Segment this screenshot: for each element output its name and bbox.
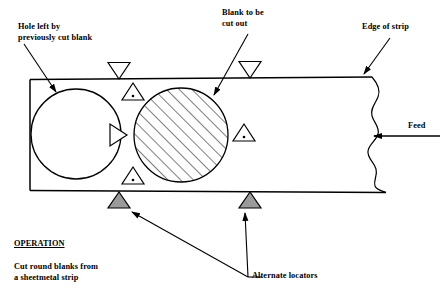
diagram-canvas [0,0,446,298]
label-hole-line2: previously cut blank [18,33,92,42]
label-blank-to-be-cut-out: Blank to becut out [222,8,264,29]
label-edge-of-strip: Edge of strip [362,22,409,33]
label-alternate-locators: Alternate locators [252,271,318,282]
shaded-triangle-locator-icon [108,192,130,208]
operation-heading: OPERATION [14,239,65,250]
shaded-triangle-locator-icon [239,192,261,208]
operation-description-line1: Cut round blanks from [14,262,98,271]
leader-altloc-left [132,212,248,277]
operation-description: Cut round blanks froma sheetmetal strip [14,262,98,283]
wavy-break-line-icon [368,77,386,193]
label-blank-line2: cut out [222,19,247,28]
label-blank-line1: Blank to be [222,8,264,17]
dot-triangle-locator-icon [122,167,144,184]
dot-triangle-locator-icon [122,83,144,100]
inverted-triangle-locator-icon [239,62,261,79]
previously-cut-hole [31,89,121,179]
label-hole-left-by: Hole left bypreviously cut blank [18,22,92,43]
leader-hole [24,44,56,92]
inverted-triangle-locator-icon [108,63,130,80]
leader-edge [364,38,390,74]
blank-to-be-cut [130,84,234,188]
operation-description-line2: a sheetmetal strip [14,273,78,282]
dot-triangle-locator-icon [233,124,255,141]
label-feed: Feed [408,121,425,132]
leader-altloc-right [245,213,248,277]
diagram-page: Hole left bypreviously cut blank Blank t… [0,0,446,298]
label-hole-line1: Hole left by [18,22,60,31]
